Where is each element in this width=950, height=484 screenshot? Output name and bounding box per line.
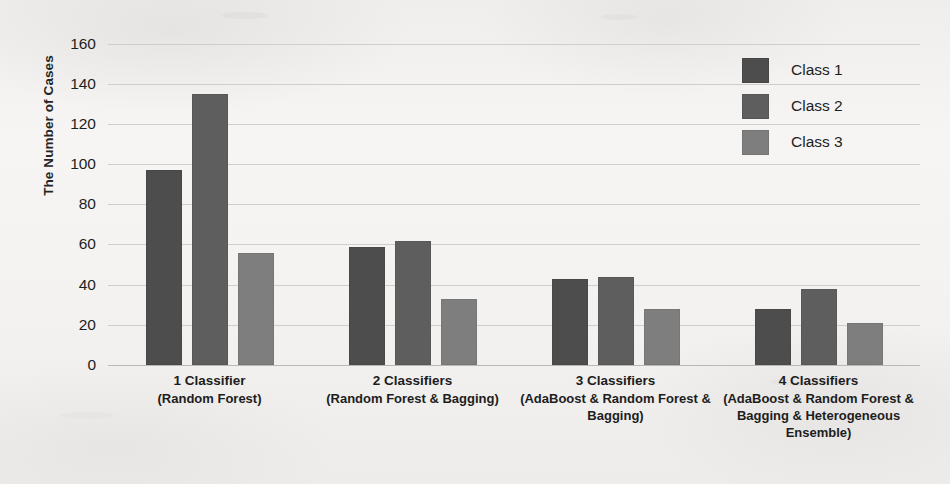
x-label-group3-line1: 3 Classifiers — [518, 372, 713, 390]
x-label-group2-line2: (Random Forest & Bagging) — [315, 390, 510, 407]
y-tick-label: 100 — [70, 155, 96, 173]
legend-label-class3: Class 3 — [791, 133, 843, 151]
bar-class2-group4[interactable] — [801, 289, 837, 365]
legend-item-class3[interactable]: Class 3 — [742, 124, 843, 160]
x-label-group4-line2: (AdaBoost & Random Forest & Bagging & He… — [721, 390, 916, 441]
bar-class2-group2[interactable] — [395, 241, 431, 365]
bar-class2-group1[interactable] — [192, 94, 228, 365]
x-axis-labels: 1 Classifier (Random Forest) 2 Classifie… — [108, 372, 920, 441]
y-tick-label: 120 — [70, 115, 96, 133]
legend-swatch-icon-class2 — [742, 94, 769, 119]
bar-group-3-classifiers — [514, 44, 717, 365]
bar-group-2-classifiers — [311, 44, 514, 365]
legend-swatch-icon-class1 — [742, 58, 769, 83]
y-tick-label: 80 — [79, 195, 96, 213]
x-label-group3-line2: (AdaBoost & Random Forest & Bagging) — [518, 390, 713, 424]
bar-class1-group3[interactable] — [552, 279, 588, 365]
x-label-group2-line1: 2 Classifiers — [315, 372, 510, 390]
legend-label-class1: Class 1 — [791, 61, 843, 79]
y-tick-label: 160 — [70, 35, 96, 53]
bar-class2-group3[interactable] — [598, 277, 634, 365]
y-tick-label: 20 — [79, 316, 96, 334]
y-tick-label: 60 — [79, 235, 96, 253]
bar-class1-group2[interactable] — [349, 247, 385, 365]
chart-legend: Class 1 Class 2 Class 3 — [742, 52, 843, 160]
legend-item-class2[interactable]: Class 2 — [742, 88, 843, 124]
x-label-group3: 3 Classifiers (AdaBoost & Random Forest … — [514, 372, 717, 441]
bar-class1-group4[interactable] — [755, 309, 791, 365]
x-label-group1: 1 Classifier (Random Forest) — [108, 372, 311, 441]
x-label-group4-line1: 4 Classifiers — [721, 372, 916, 390]
y-tick-label: 40 — [79, 276, 96, 294]
bar-group-1-classifier — [108, 44, 311, 365]
x-label-group1-line1: 1 Classifier — [112, 372, 307, 390]
y-axis-title: The Number of Cases — [41, 16, 56, 236]
y-tick-label: 140 — [70, 75, 96, 93]
legend-item-class1[interactable]: Class 1 — [742, 52, 843, 88]
legend-label-class2: Class 2 — [791, 97, 843, 115]
bar-class1-group1[interactable] — [146, 170, 182, 365]
bar-class3-group1[interactable] — [238, 253, 274, 365]
x-label-group1-line2: (Random Forest) — [112, 390, 307, 407]
bar-class3-group2[interactable] — [441, 299, 477, 365]
y-tick-label: 0 — [87, 356, 96, 374]
gridline-0-baseline: 0 — [108, 365, 920, 366]
bar-chart: The Number of Cases 160 140 120 100 80 6… — [0, 0, 950, 484]
x-label-group4: 4 Classifiers (AdaBoost & Random Forest … — [717, 372, 920, 441]
bar-class3-group4[interactable] — [847, 323, 883, 365]
x-label-group2: 2 Classifiers (Random Forest & Bagging) — [311, 372, 514, 441]
legend-swatch-icon-class3 — [742, 130, 769, 155]
bar-class3-group3[interactable] — [644, 309, 680, 365]
